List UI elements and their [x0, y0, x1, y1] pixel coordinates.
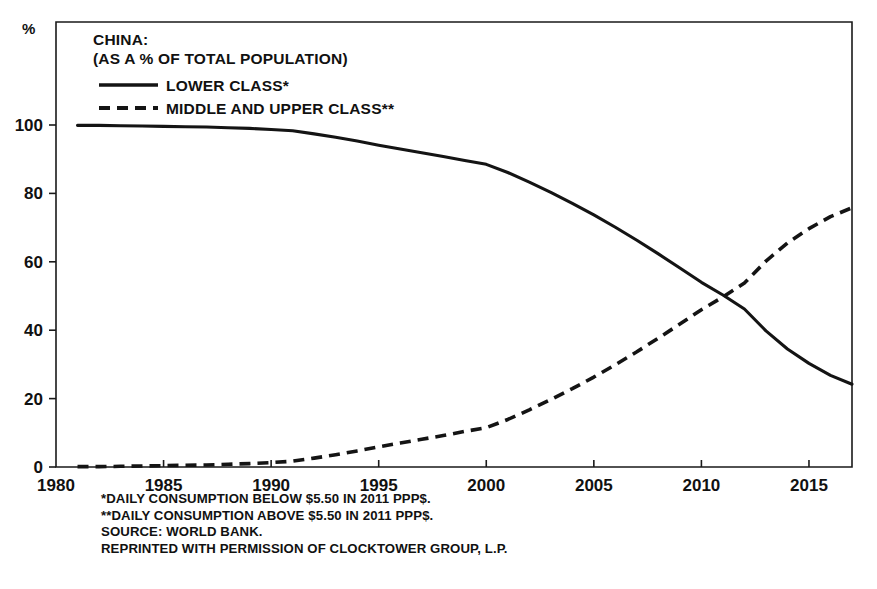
footnote-line: *DAILY CONSUMPTION BELOW $5.50 IN 2011 P… [101, 491, 431, 506]
data-series-group [78, 125, 852, 466]
y-tick-label: 0 [34, 458, 43, 477]
legend-subtitle: (AS A % OF TOTAL POPULATION) [93, 50, 348, 67]
series-line-middle-upper-class [78, 208, 852, 467]
x-tick-label: 1980 [37, 476, 75, 495]
y-tick-label: 40 [24, 321, 43, 340]
series-line-lower-class [78, 125, 852, 384]
x-tick-label: 2000 [467, 476, 505, 495]
y-axis-unit-label: % [22, 20, 35, 37]
footnote-line: SOURCE: WORLD BANK. [101, 524, 263, 539]
x-tick-label: 2010 [682, 476, 720, 495]
china-class-share-line-chart: 020406080100 198019851990199520002005201… [0, 0, 877, 589]
y-axis-ticks: 020406080100 [15, 116, 56, 477]
x-tick-label: 2005 [575, 476, 613, 495]
y-tick-label: 20 [24, 390, 43, 409]
legend-title: CHINA: [93, 31, 148, 48]
y-tick-label: 60 [24, 253, 43, 272]
legend-label-middle-upper-class: MIDDLE AND UPPER CLASS** [166, 100, 395, 117]
y-tick-label: 80 [24, 184, 43, 203]
chart-footnotes: *DAILY CONSUMPTION BELOW $5.50 IN 2011 P… [101, 491, 508, 556]
y-tick-label: 100 [15, 116, 43, 135]
x-tick-label: 2015 [790, 476, 828, 495]
chart-page: 020406080100 198019851990199520002005201… [0, 0, 877, 589]
legend-label-lower-class: LOWER CLASS* [166, 77, 290, 94]
chart-legend: CHINA: (AS A % OF TOTAL POPULATION) LOWE… [93, 31, 395, 117]
footnote-line: REPRINTED WITH PERMISSION OF CLOCKTOWER … [101, 541, 508, 556]
footnote-line: **DAILY CONSUMPTION ABOVE $5.50 IN 2011 … [101, 508, 433, 523]
